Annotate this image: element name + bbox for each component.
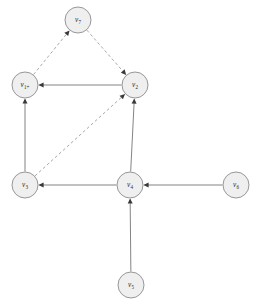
graph-node-v3[interactable]: v3 — [12, 172, 38, 198]
arrow-head-e-v4-v2 — [132, 98, 137, 103]
edge-line-e-v3-v2 — [35, 95, 124, 176]
arrow-head-e-v6-v4 — [143, 183, 148, 188]
node-circle-v2[interactable] — [122, 72, 148, 98]
graph-node-v5[interactable]: v5 — [118, 272, 144, 298]
graph-node-v7[interactable]: v7 — [65, 7, 91, 33]
node-circle-v7[interactable] — [65, 7, 91, 33]
arrow-head-e-v1p-v7 — [64, 30, 69, 36]
arrow-head-e-v4-v3 — [38, 183, 43, 188]
node-circle-v4[interactable] — [117, 172, 143, 198]
edge-line-e-v4-v2 — [131, 99, 135, 171]
edge-line-e-v7-v2 — [87, 30, 126, 74]
edges-layer — [23, 30, 223, 271]
arrow-head-e-v5-v4 — [128, 198, 133, 203]
graph-edge — [38, 83, 121, 88]
node-circle-v5[interactable] — [118, 272, 144, 298]
graph-node-v4[interactable]: v4 — [117, 172, 143, 198]
graph-edge — [35, 94, 125, 176]
graph-edge — [34, 30, 70, 74]
graph-node-v2[interactable]: v2 — [122, 72, 148, 98]
node-circle-v1p[interactable] — [12, 72, 38, 98]
graph-diagram-canvas: v7v1+v2v3v4v6v5 — [0, 0, 257, 306]
graph-edge — [87, 30, 126, 75]
arrow-head-e-v3-v1p — [23, 98, 28, 103]
edge-line-e-v5-v4 — [130, 199, 131, 271]
graph-node-v1p[interactable]: v1+ — [12, 72, 38, 98]
edge-line-e-v1p-v7 — [34, 31, 69, 74]
graph-edge — [143, 183, 222, 188]
arrow-head-e-v2-v1p — [38, 83, 43, 88]
arrow-head-e-v7-v2 — [121, 69, 126, 75]
graph-edge — [23, 98, 28, 171]
graph-node-v6[interactable]: v6 — [223, 172, 249, 198]
graph-edge — [131, 98, 137, 171]
graph-edge — [128, 198, 133, 271]
node-circle-v6[interactable] — [223, 172, 249, 198]
graph-edge — [38, 183, 116, 188]
node-circle-v3[interactable] — [12, 172, 38, 198]
